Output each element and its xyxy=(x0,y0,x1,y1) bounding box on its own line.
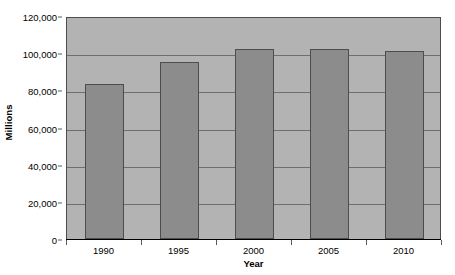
x-tick-mark xyxy=(66,240,67,245)
x-tick-label-2000: 2000 xyxy=(243,245,264,256)
y-tick-label: 40,000 xyxy=(28,160,57,171)
y-tick-mark xyxy=(58,202,62,203)
x-tick-mark xyxy=(291,240,292,245)
x-axis-line xyxy=(66,239,441,240)
x-tick-mark xyxy=(216,240,217,245)
bar-1995[interactable] xyxy=(160,62,199,239)
x-tick-label-2005: 2005 xyxy=(318,245,339,256)
y-axis-tick-labels: 020,00040,00060,00080,000100,000120,000 xyxy=(14,0,62,275)
x-tick-mark xyxy=(366,240,367,245)
x-tick-label-1995: 1995 xyxy=(168,245,189,256)
x-tick-label-1990: 1990 xyxy=(93,245,114,256)
y-tick-mark xyxy=(58,128,62,129)
bar-chart: Millions 020,00040,00060,00080,000100,00… xyxy=(0,0,455,275)
x-tick-mark xyxy=(441,240,442,245)
x-tick-label-2010: 2010 xyxy=(393,245,414,256)
y-tick-label: 20,000 xyxy=(28,197,57,208)
y-tick-mark xyxy=(58,165,62,166)
bar-2005[interactable] xyxy=(310,49,349,239)
x-tick-mark xyxy=(141,240,142,245)
bar-2000[interactable] xyxy=(235,49,274,239)
y-axis-title-label: Millions xyxy=(3,104,14,140)
y-tick-mark xyxy=(58,17,62,18)
y-tick-mark xyxy=(58,91,62,92)
y-tick-label: 80,000 xyxy=(28,86,57,97)
y-tick-mark xyxy=(58,240,62,241)
y-tick-label: 120,000 xyxy=(23,12,57,23)
bar-2010[interactable] xyxy=(385,51,424,239)
y-tick-mark xyxy=(58,54,62,55)
y-tick-label: 100,000 xyxy=(23,49,57,60)
y-tick-label: 60,000 xyxy=(28,123,57,134)
x-axis-title: Year xyxy=(66,258,441,269)
y-tick-label: 0 xyxy=(52,235,57,246)
plot-area xyxy=(66,17,441,240)
bar-1990[interactable] xyxy=(85,84,124,239)
